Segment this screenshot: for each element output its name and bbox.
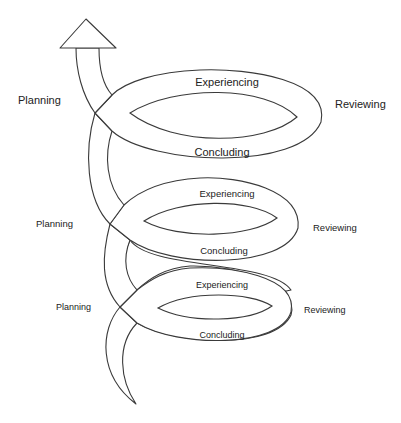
label-planning-top: Planning (18, 94, 61, 106)
label-concluding-bottom: Concluding (199, 330, 244, 340)
label-reviewing-middle: Reviewing (313, 222, 357, 233)
up-arrow-icon (60, 19, 116, 48)
label-concluding-top: Concluding (194, 146, 249, 158)
label-reviewing-bottom: Reviewing (304, 305, 346, 315)
spiral-cycle-diagram: Planning Experiencing Reviewing Concludi… (0, 0, 401, 423)
label-reviewing-top: Reviewing (335, 98, 386, 110)
label-concluding-middle: Concluding (200, 245, 248, 256)
label-planning-bottom: Planning (56, 302, 91, 312)
label-experiencing-top: Experiencing (195, 76, 259, 88)
label-planning-middle: Planning (36, 218, 73, 229)
label-experiencing-bottom: Experiencing (196, 280, 248, 290)
label-experiencing-middle: Experiencing (200, 188, 255, 199)
spiral-tail (106, 307, 137, 404)
